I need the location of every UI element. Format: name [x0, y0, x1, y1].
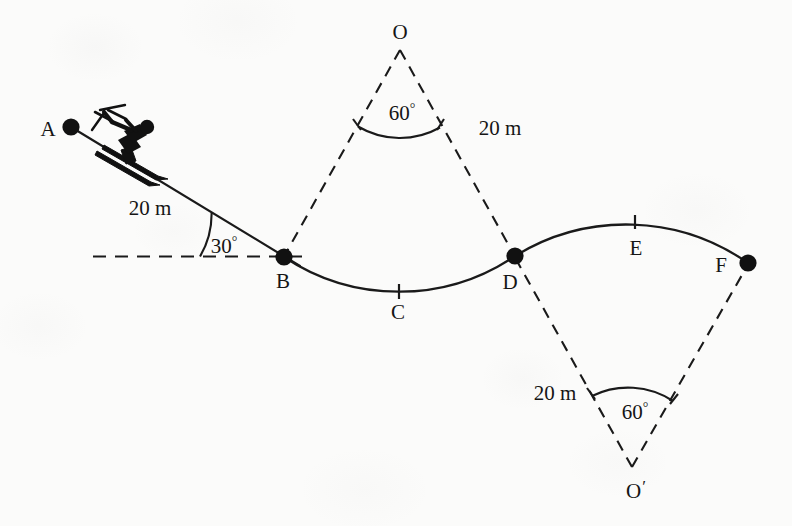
angle-arc-60-upper — [358, 127, 440, 138]
degree-symbol-icon: ° — [643, 400, 649, 415]
label-point-a: A — [40, 119, 55, 140]
degree-symbol-icon: ° — [410, 101, 416, 116]
label-angle-slope: 30° — [211, 235, 238, 257]
label-radius-upper: 20 m — [479, 118, 522, 139]
label-center-o-prime-letter: O — [626, 479, 641, 503]
figure-svg — [0, 0, 792, 526]
label-point-c: C — [391, 302, 405, 323]
label-center-o: O — [392, 22, 407, 43]
point-dot-f — [739, 254, 756, 271]
label-angle-valley-value: 60 — [389, 101, 410, 125]
label-angle-slope-value: 30 — [211, 234, 232, 258]
label-angle-hill: 60° — [622, 401, 649, 423]
label-center-o-prime: O′ — [626, 478, 646, 501]
radius-line-o-d — [400, 50, 513, 253]
radius-line-oprime-f — [632, 268, 746, 467]
label-point-f: F — [715, 255, 727, 276]
angle-arc-60-lower-tick-left — [587, 388, 595, 399]
point-dot-d — [506, 247, 523, 264]
skier-figure — [92, 105, 168, 186]
point-dot-b — [275, 248, 292, 265]
label-point-b: B — [276, 271, 290, 292]
radius-line-o-b — [286, 50, 400, 253]
diagram-canvas: A B C D E F O O′ 20 m 20 m 20 m 30° 60° … — [0, 0, 792, 526]
point-dot-a — [62, 118, 79, 135]
label-center-o-prime-mark: ′ — [641, 477, 646, 496]
label-radius-lower: 20 m — [534, 383, 577, 404]
label-point-d: D — [502, 272, 517, 293]
radius-line-oprime-d — [517, 261, 632, 467]
label-angle-valley: 60° — [389, 102, 416, 124]
label-point-e: E — [630, 238, 643, 259]
label-angle-hill-value: 60 — [622, 400, 643, 424]
degree-symbol-icon: ° — [232, 234, 238, 249]
label-slope-length: 20 m — [129, 198, 172, 219]
